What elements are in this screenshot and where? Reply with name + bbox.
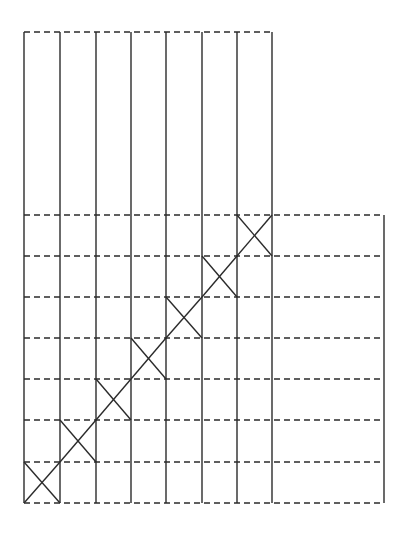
solid-vertical-lines	[24, 32, 384, 503]
cross-marks	[24, 215, 272, 503]
dashed-horizontal-lines	[24, 32, 384, 503]
grid-diagram	[0, 0, 406, 535]
